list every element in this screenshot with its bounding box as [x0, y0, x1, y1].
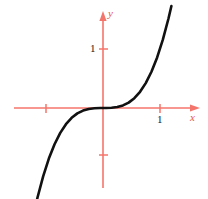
- x-axis-label: x: [190, 112, 195, 123]
- cubic-function-figure: 1 1 x y: [0, 0, 208, 199]
- cubic-curve: [15, 6, 172, 199]
- y-axis-arrowhead: [99, 11, 106, 21]
- graph-canvas: [0, 0, 208, 199]
- x-axis-tick-label-one: 1: [157, 114, 163, 125]
- y-axis-tick-label-one: 1: [90, 43, 96, 54]
- y-axis-label: y: [108, 8, 113, 19]
